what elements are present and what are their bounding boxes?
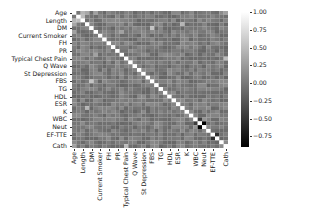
heatmap-cell bbox=[85, 34, 89, 38]
heatmap-cell bbox=[202, 72, 206, 76]
heatmap-cell bbox=[89, 64, 93, 68]
heatmap-cell bbox=[224, 137, 228, 141]
heatmap-cell bbox=[154, 80, 158, 84]
heatmap-cell bbox=[176, 64, 180, 68]
heatmap-cell bbox=[137, 41, 141, 45]
heatmap-cell bbox=[167, 91, 171, 95]
heatmap-cell bbox=[211, 99, 215, 103]
heatmap-cell bbox=[185, 125, 189, 129]
heatmap-cell bbox=[133, 26, 137, 30]
heatmap-cell bbox=[163, 106, 167, 110]
heatmap-cell bbox=[98, 110, 102, 114]
heatmap-cell bbox=[206, 121, 210, 125]
heatmap-cell bbox=[120, 140, 124, 144]
heatmap-cell bbox=[193, 129, 197, 133]
heatmap-cell bbox=[124, 60, 128, 64]
heatmap-cell bbox=[163, 87, 167, 91]
heatmap-cell bbox=[120, 87, 124, 91]
heatmap-cell bbox=[150, 64, 154, 68]
heatmap-cell bbox=[202, 99, 206, 103]
y-tick-label: Cath bbox=[53, 143, 67, 149]
heatmap-cell bbox=[172, 137, 176, 141]
heatmap-cell bbox=[206, 49, 210, 53]
x-tick-label: St Depression bbox=[141, 152, 147, 195]
heatmap-cell bbox=[211, 76, 215, 80]
heatmap-cell bbox=[85, 87, 89, 91]
heatmap-cell bbox=[98, 129, 102, 133]
heatmap-cell bbox=[89, 91, 93, 95]
heatmap-cell bbox=[198, 121, 202, 125]
heatmap-cell bbox=[107, 95, 111, 99]
heatmap-cell bbox=[202, 38, 206, 42]
heatmap-cell bbox=[172, 118, 176, 122]
heatmap-cell bbox=[146, 64, 150, 68]
heatmap-cell bbox=[198, 30, 202, 34]
heatmap-cell bbox=[163, 15, 167, 19]
heatmap-cell bbox=[224, 144, 228, 148]
heatmap-cell bbox=[94, 30, 98, 34]
heatmap-cell bbox=[198, 26, 202, 30]
heatmap-cell bbox=[120, 99, 124, 103]
heatmap-cell bbox=[72, 83, 76, 87]
heatmap-cell bbox=[94, 49, 98, 53]
heatmap-cell bbox=[146, 76, 150, 80]
heatmap-cell bbox=[115, 80, 119, 84]
heatmap-cell bbox=[206, 60, 210, 64]
heatmap-cell bbox=[159, 144, 163, 148]
heatmap-cell bbox=[159, 95, 163, 99]
heatmap-cell bbox=[189, 129, 193, 133]
heatmap-cell bbox=[198, 64, 202, 68]
heatmap-cell bbox=[180, 19, 184, 23]
heatmap-cell bbox=[154, 106, 158, 110]
heatmap-cell bbox=[224, 41, 228, 45]
heatmap-cell bbox=[120, 121, 124, 125]
heatmap-cell bbox=[137, 91, 141, 95]
heatmap-cell bbox=[102, 106, 106, 110]
heatmap-cell bbox=[224, 26, 228, 30]
heatmap-cell bbox=[211, 60, 215, 64]
heatmap-cell bbox=[120, 80, 124, 84]
heatmap-cell bbox=[176, 133, 180, 137]
heatmap-cell bbox=[141, 91, 145, 95]
heatmap-cell bbox=[120, 60, 124, 64]
heatmap-cell bbox=[137, 83, 141, 87]
heatmap-cell bbox=[89, 80, 93, 84]
heatmap-cell bbox=[172, 22, 176, 26]
heatmap-cell bbox=[107, 91, 111, 95]
heatmap-cell bbox=[141, 102, 145, 106]
heatmap-cell bbox=[185, 144, 189, 148]
heatmap-cell bbox=[102, 53, 106, 57]
heatmap-cell bbox=[146, 114, 150, 118]
x-tick-mark bbox=[100, 149, 101, 151]
heatmap-cell bbox=[98, 133, 102, 137]
heatmap-cell bbox=[137, 34, 141, 38]
heatmap-cell bbox=[159, 15, 163, 19]
heatmap-cell bbox=[128, 34, 132, 38]
heatmap-cell bbox=[219, 106, 223, 110]
heatmap-cell bbox=[89, 118, 93, 122]
heatmap-cell bbox=[185, 38, 189, 42]
heatmap-cell bbox=[128, 38, 132, 42]
heatmap-cell bbox=[98, 118, 102, 122]
heatmap-cell bbox=[215, 19, 219, 23]
x-tick-label: Current Smoker bbox=[97, 152, 103, 201]
heatmap-cell bbox=[89, 11, 93, 15]
heatmap-cell bbox=[76, 140, 80, 144]
heatmap-cell bbox=[133, 64, 137, 68]
heatmap-cell bbox=[137, 106, 141, 110]
heatmap-cell bbox=[76, 99, 80, 103]
heatmap-cell bbox=[172, 95, 176, 99]
heatmap-cell bbox=[189, 80, 193, 84]
heatmap-cell bbox=[185, 80, 189, 84]
heatmap-cell bbox=[159, 83, 163, 87]
heatmap-cell bbox=[224, 110, 228, 114]
x-tick-label: HDL bbox=[167, 152, 173, 165]
heatmap-cell bbox=[102, 140, 106, 144]
heatmap-cell bbox=[198, 144, 202, 148]
heatmap-cell bbox=[72, 38, 76, 42]
heatmap-cell bbox=[180, 121, 184, 125]
heatmap-cell bbox=[224, 140, 228, 144]
colorbar-tick-label: 1.00 bbox=[253, 9, 267, 15]
heatmap-cell bbox=[111, 121, 115, 125]
heatmap-cell bbox=[89, 83, 93, 87]
